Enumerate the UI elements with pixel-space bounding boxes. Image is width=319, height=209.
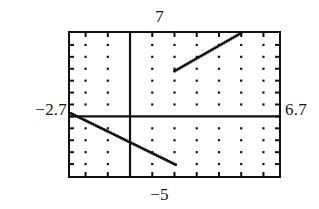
grid-dot: [173, 103, 175, 105]
grid-dot: [218, 163, 220, 165]
grid-dot: [218, 139, 220, 141]
grid-dot: [173, 139, 175, 141]
grid-dot: [84, 127, 86, 129]
grid-dot-layer: [70, 33, 279, 176]
grid-dot: [84, 103, 86, 105]
plot-canvas: [70, 33, 279, 176]
curve-layer: [70, 33, 243, 166]
grid-dot: [173, 127, 175, 129]
grid-dot: [151, 127, 153, 129]
grid-dot: [151, 91, 153, 93]
grid-dot: [240, 151, 242, 153]
grid-dot: [151, 68, 153, 70]
plot-viewport: [68, 31, 281, 178]
grid-dot: [262, 44, 264, 46]
graphing-calculator-screen: 7 −2.7 6.7 −5: [0, 0, 319, 209]
grid-dot: [196, 68, 198, 70]
grid-dot: [151, 103, 153, 105]
grid-dot: [240, 127, 242, 129]
grid-dot: [262, 139, 264, 141]
curve-pixel: [174, 163, 177, 166]
grid-dot: [151, 139, 153, 141]
grid-dot: [173, 91, 175, 93]
grid-dot: [84, 139, 86, 141]
grid-dot: [218, 151, 220, 153]
x-max-label: 6.7: [285, 101, 307, 118]
grid-dot: [240, 44, 242, 46]
grid-dot: [218, 91, 220, 93]
grid-dot: [151, 80, 153, 82]
grid-dot: [107, 91, 109, 93]
grid-dot: [196, 103, 198, 105]
grid-dot: [196, 91, 198, 93]
grid-dot: [240, 163, 242, 165]
grid-dot: [240, 103, 242, 105]
grid-dot: [107, 139, 109, 141]
grid-dot: [84, 56, 86, 58]
grid-dot: [107, 127, 109, 129]
grid-dot: [107, 56, 109, 58]
grid-dot: [84, 44, 86, 46]
grid-dot: [173, 80, 175, 82]
grid-dot: [107, 44, 109, 46]
grid-dot: [196, 127, 198, 129]
grid-dot: [196, 44, 198, 46]
grid-dot: [196, 151, 198, 153]
grid-dot: [107, 163, 109, 165]
grid-dot: [218, 68, 220, 70]
grid-dot: [262, 163, 264, 165]
grid-dot: [196, 163, 198, 165]
grid-dot: [84, 91, 86, 93]
grid-dot: [240, 139, 242, 141]
grid-dot: [84, 80, 86, 82]
grid-dot: [151, 163, 153, 165]
grid-dot: [240, 56, 242, 58]
grid-dot: [262, 56, 264, 58]
grid-dot: [218, 103, 220, 105]
grid-dot: [196, 80, 198, 82]
y-min-label: −5: [0, 186, 319, 203]
x-min-label: −2.7: [35, 101, 67, 118]
grid-dot: [218, 56, 220, 58]
grid-dot: [173, 56, 175, 58]
grid-dot: [240, 80, 242, 82]
grid-dot: [151, 44, 153, 46]
grid-dot: [262, 80, 264, 82]
grid-dot: [107, 80, 109, 82]
grid-dot: [173, 44, 175, 46]
grid-dot: [262, 151, 264, 153]
grid-dot: [84, 68, 86, 70]
grid-dot: [84, 163, 86, 165]
grid-dot: [262, 68, 264, 70]
grid-dot: [262, 103, 264, 105]
grid-dot: [262, 127, 264, 129]
grid-dot: [196, 139, 198, 141]
y-max-label: 7: [0, 8, 319, 25]
grid-dot: [107, 151, 109, 153]
grid-dot: [151, 56, 153, 58]
grid-dot: [240, 91, 242, 93]
grid-dot: [107, 103, 109, 105]
grid-dot: [262, 91, 264, 93]
grid-dot: [218, 127, 220, 129]
grid-dot: [218, 80, 220, 82]
grid-dot: [107, 68, 109, 70]
curve-pixel: [240, 33, 243, 34]
grid-dot: [84, 151, 86, 153]
grid-dot: [240, 68, 242, 70]
grid-dot: [173, 151, 175, 153]
